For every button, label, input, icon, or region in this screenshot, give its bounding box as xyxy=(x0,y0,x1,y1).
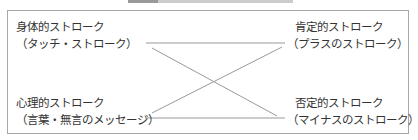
node-title: 否定的ストローク xyxy=(287,95,418,112)
node-title: 肯定的ストローク xyxy=(287,19,408,36)
edge-psychological-positive xyxy=(152,47,282,113)
node-title: 心理的ストローク xyxy=(16,95,159,112)
node-psychological-stroke: 心理的ストローク （言葉・無言のメッセージ） xyxy=(16,95,159,129)
edge-physical-negative xyxy=(152,48,277,116)
node-title: 身体的ストローク xyxy=(16,19,137,36)
node-subtitle: （マイナスのストローク） xyxy=(287,112,418,129)
node-subtitle: （タッチ・ストローク） xyxy=(16,36,137,53)
node-negative-stroke: 否定的ストローク （マイナスのストローク） xyxy=(287,95,418,129)
node-positive-stroke: 肯定的ストローク （プラスのストローク） xyxy=(287,19,408,53)
node-physical-stroke: 身体的ストローク （タッチ・ストローク） xyxy=(16,19,137,53)
node-subtitle: （プラスのストローク） xyxy=(287,36,408,53)
node-subtitle: （言葉・無言のメッセージ） xyxy=(16,112,159,129)
